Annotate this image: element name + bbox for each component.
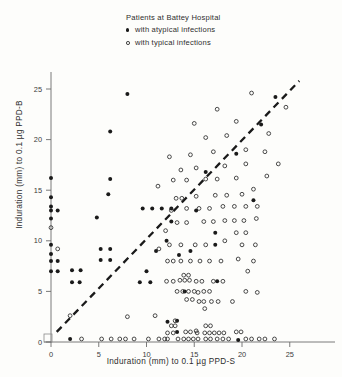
data-point-open	[187, 290, 191, 294]
data-point-open	[194, 166, 198, 170]
y-tick-label: 15	[34, 186, 42, 195]
data-point-open	[126, 315, 130, 319]
data-point-open	[231, 300, 235, 304]
data-point-open	[68, 314, 72, 318]
data-point-open	[174, 196, 178, 200]
data-point-open	[179, 259, 183, 263]
data-point-open	[225, 193, 229, 197]
data-point-open	[166, 331, 170, 335]
data-point-open	[209, 337, 213, 341]
data-point-open	[244, 290, 248, 294]
data-point-open	[276, 162, 280, 166]
data-point-open	[189, 153, 193, 157]
data-point-open	[171, 279, 175, 283]
data-point-open	[171, 331, 175, 335]
data-point-filled	[145, 269, 149, 273]
data-point-open	[234, 330, 238, 334]
data-point-open	[157, 337, 161, 341]
y-tick-label: 5	[38, 287, 42, 296]
data-point-open	[196, 337, 200, 341]
y-tick-label: 0	[38, 338, 42, 347]
data-point-open	[216, 300, 220, 304]
data-point-open	[188, 278, 192, 282]
data-point-open	[223, 219, 227, 223]
data-point-open	[198, 259, 202, 263]
data-point-open	[244, 231, 248, 235]
data-point-filled	[259, 122, 263, 126]
data-point-open	[255, 204, 259, 208]
data-point-open	[284, 105, 288, 109]
data-point-open	[246, 269, 250, 273]
data-point-filled	[160, 206, 164, 210]
data-point-open	[212, 331, 216, 335]
data-point-filled	[213, 243, 217, 247]
data-point-open	[215, 337, 219, 341]
data-point-open	[263, 150, 267, 154]
data-point-open	[204, 136, 208, 140]
data-point-filled	[49, 208, 53, 212]
data-point-open	[192, 290, 196, 294]
data-point-open	[211, 279, 215, 283]
data-point-open	[217, 331, 221, 335]
data-point-open	[265, 174, 269, 178]
data-point-open	[221, 279, 225, 283]
data-point-filled	[188, 249, 192, 253]
data-point-filled	[138, 280, 142, 284]
data-point-filled	[169, 220, 173, 224]
data-point-filled	[56, 259, 60, 263]
data-point-filled	[108, 258, 112, 262]
data-point-open	[273, 337, 277, 341]
data-point-open	[222, 331, 226, 335]
data-point-filled	[108, 130, 112, 134]
data-point-open	[182, 337, 186, 341]
data-point-open	[109, 337, 113, 341]
data-point-filled	[106, 192, 110, 196]
reference-line-layer	[57, 81, 300, 332]
data-point-open	[175, 290, 179, 294]
data-point-open	[204, 243, 208, 247]
data-point-open	[165, 279, 169, 283]
data-point-open	[180, 196, 184, 200]
data-point-open	[176, 337, 180, 341]
data-point-filled	[99, 258, 103, 262]
data-point-open	[202, 290, 206, 294]
y-tick-label: 20	[34, 135, 42, 144]
data-point-open	[232, 219, 236, 223]
data-point-filled	[49, 217, 53, 221]
data-point-open	[179, 168, 183, 172]
data-point-open	[204, 337, 208, 341]
data-point-filled	[215, 279, 219, 283]
data-point-open	[124, 337, 128, 341]
data-point-filled	[175, 330, 179, 334]
y-tick-label: 10	[34, 236, 42, 245]
data-point-open	[178, 278, 182, 282]
data-point-open	[215, 107, 219, 111]
data-point-open	[192, 122, 196, 126]
data-point-open	[56, 247, 60, 251]
data-point-filled	[68, 337, 72, 341]
data-point-filled	[251, 198, 255, 202]
data-point-open	[200, 279, 204, 283]
data-point-open	[236, 257, 240, 261]
data-point-open	[164, 229, 168, 233]
data-point-open	[227, 337, 231, 341]
data-point-open	[171, 259, 175, 263]
data-point-filled	[56, 208, 60, 212]
data-point-open	[169, 324, 173, 328]
data-point-open	[182, 273, 186, 277]
data-point-filled	[49, 243, 53, 247]
plot-canvas: 05101520250510152025	[0, 0, 342, 377]
data-point-open	[210, 300, 214, 304]
data-point-open	[209, 324, 213, 328]
data-point-open	[242, 219, 246, 223]
plot-area: 05101520250510152025 Induration (mm) to …	[0, 0, 342, 377]
data-point-open	[197, 300, 201, 304]
data-point-filled	[141, 206, 145, 210]
data-point-filled	[49, 252, 53, 256]
axis-layer	[44, 72, 335, 342]
data-point-open	[179, 243, 183, 247]
data-point-open	[257, 337, 261, 341]
data-point-open	[147, 337, 151, 341]
data-point-filled	[213, 231, 217, 235]
data-point-open	[221, 204, 225, 208]
